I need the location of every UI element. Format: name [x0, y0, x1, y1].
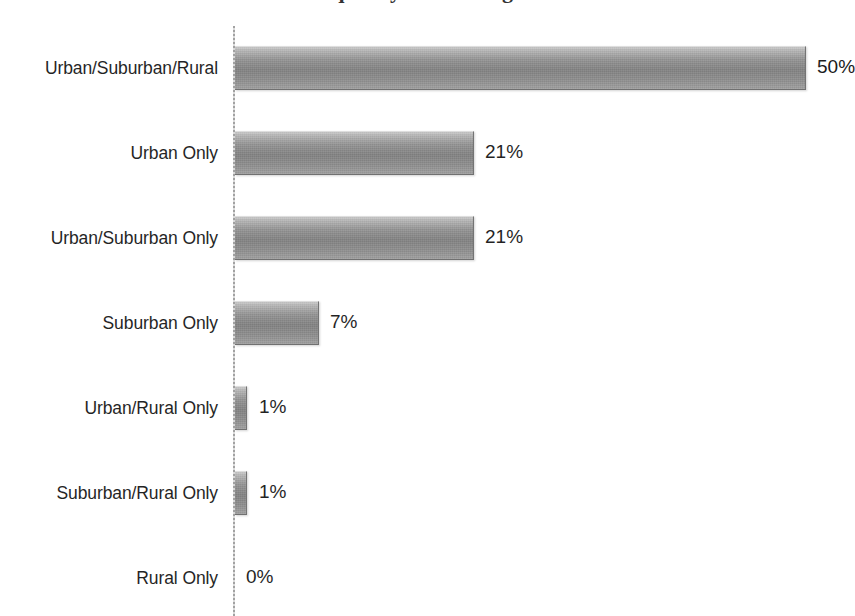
category-label-suburban-only: Suburban Only: [0, 281, 218, 366]
category-label-urban-suburban-rural: Urban/Suburban/Rural: [0, 26, 218, 111]
bar-track: 7%: [235, 281, 822, 366]
bar-suburban-only[interactable]: [235, 301, 319, 345]
table-row: Suburban Only 7%: [0, 281, 822, 366]
bar-track: 1%: [235, 366, 822, 451]
category-label-urban-only: Urban Only: [0, 111, 218, 196]
bar-track: 21%: [235, 196, 822, 281]
category-label-rural-only: Rural Only: [0, 536, 218, 616]
table-row: Urban/Suburban/Rural 50%: [0, 26, 822, 111]
category-label-urban-suburban-only: Urban/Suburban Only: [0, 196, 218, 281]
bar-track: 0%: [235, 536, 822, 616]
bar-urban-rural-only[interactable]: [235, 386, 247, 430]
table-row: Urban Only 21%: [0, 111, 822, 196]
bar-suburban-rural-only[interactable]: [235, 471, 247, 515]
table-row: Suburban/Rural Only 1%: [0, 451, 822, 536]
bar-value-urban-rural-only: 1%: [259, 386, 286, 428]
bar-value-suburban-rural-only: 1%: [259, 471, 286, 513]
bar-track: 50%: [235, 26, 822, 111]
bar-value-suburban-only: 7%: [330, 301, 357, 343]
bar-urban-suburban-rural[interactable]: [235, 46, 806, 90]
table-row: Urban/Suburban Only 21%: [0, 196, 822, 281]
bar-value-rural-only: 0%: [246, 556, 273, 598]
table-row: Urban/Rural Only 1%: [0, 366, 822, 451]
bar-urban-suburban-only[interactable]: [235, 216, 474, 260]
bar-track: 21%: [235, 111, 822, 196]
bar-urban-only[interactable]: [235, 131, 474, 175]
table-row: Rural Only 0%: [0, 536, 822, 616]
category-label-urban-rural-only: Urban/Rural Only: [0, 366, 218, 451]
bar-value-urban-suburban-only: 21%: [485, 216, 523, 258]
bar-track: 1%: [235, 451, 822, 536]
bar-value-urban-suburban-rural: 50%: [817, 46, 855, 88]
bar-value-urban-only: 21%: [485, 131, 523, 173]
category-label-suburban-rural-only: Suburban/Rural Only: [0, 451, 218, 536]
